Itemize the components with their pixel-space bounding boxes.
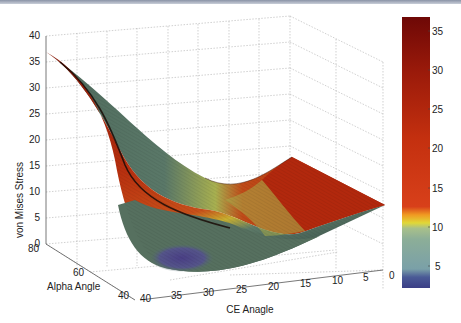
svg-text:30: 30 bbox=[203, 287, 215, 298]
svg-text:40: 40 bbox=[29, 30, 41, 41]
svg-text:25: 25 bbox=[236, 284, 248, 295]
svg-text:20: 20 bbox=[432, 143, 444, 154]
x-axis-ticks: 40 35 30 25 20 15 10 5 0 bbox=[140, 270, 395, 304]
svg-text:60: 60 bbox=[73, 267, 85, 278]
z-axis-ticks: 0 5 10 15 20 25 30 35 40 bbox=[29, 30, 41, 249]
svg-text:20: 20 bbox=[29, 134, 41, 145]
svg-text:10: 10 bbox=[432, 222, 444, 233]
svg-text:30: 30 bbox=[29, 82, 41, 93]
colorbar: 35 30 25 20 15 10 5 bbox=[402, 17, 444, 288]
svg-text:40: 40 bbox=[118, 290, 130, 301]
z-axis-label: von Mises Stress bbox=[14, 162, 25, 238]
svg-text:15: 15 bbox=[29, 160, 41, 171]
svg-text:30: 30 bbox=[432, 65, 444, 76]
svg-text:25: 25 bbox=[29, 108, 41, 119]
svg-text:5: 5 bbox=[363, 272, 369, 283]
svg-text:80: 80 bbox=[28, 243, 40, 254]
svg-text:5: 5 bbox=[34, 212, 40, 223]
svg-text:20: 20 bbox=[268, 281, 280, 292]
svg-text:40: 40 bbox=[140, 293, 152, 304]
svg-text:10: 10 bbox=[29, 186, 41, 197]
svg-text:5: 5 bbox=[435, 261, 441, 272]
svg-text:25: 25 bbox=[432, 104, 444, 115]
svg-text:0: 0 bbox=[389, 270, 395, 281]
svg-text:35: 35 bbox=[29, 56, 41, 67]
y-axis-label: Alpha Angle bbox=[47, 281, 101, 292]
svg-text:15: 15 bbox=[432, 183, 444, 194]
x-axis-label: CE Anagle bbox=[226, 304, 274, 315]
svg-text:35: 35 bbox=[432, 26, 444, 37]
svg-text:15: 15 bbox=[300, 278, 312, 289]
svg-text:10: 10 bbox=[332, 275, 344, 286]
y-axis-ticks: 80 60 40 bbox=[28, 243, 130, 301]
surface-chart: 0 5 10 15 20 25 30 35 40 80 60 40 40 35 … bbox=[0, 0, 461, 323]
svg-text:35: 35 bbox=[171, 290, 183, 301]
